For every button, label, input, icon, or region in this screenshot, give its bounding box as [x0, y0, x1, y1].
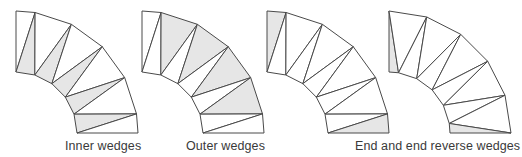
- inner-wedges-label: Inner wedges: [65, 139, 141, 153]
- wedge-diagrams: [0, 0, 522, 157]
- outer-wedges-diagram: [142, 11, 264, 133]
- end-wedges-label: End and end reverse wedges: [355, 139, 520, 153]
- end-wedges-diagram: [267, 11, 389, 133]
- outer-wedges-label: Outer wedges: [186, 139, 265, 153]
- end-reverse-wedges-diagram: [389, 11, 511, 133]
- inner-wedges-diagram: [16, 11, 138, 133]
